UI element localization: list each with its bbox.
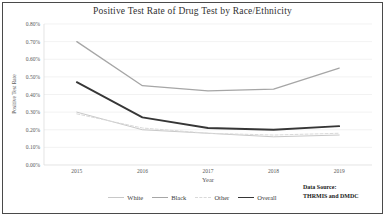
data-source-line2: THRMIS and DMDC <box>303 192 359 201</box>
y-tick-label: 0.70% <box>26 39 41 45</box>
y-tick-label: 0.80% <box>26 21 41 27</box>
x-tick-label: 2015 <box>71 168 82 174</box>
legend-item-white: White <box>108 194 143 201</box>
x-axis-title: Year <box>44 176 372 183</box>
gridlines <box>44 24 372 165</box>
y-tick-label: 0.00% <box>26 162 41 168</box>
x-tick-label: 2016 <box>137 168 148 174</box>
legend-swatch-black <box>152 197 168 198</box>
y-tick-label: 0.10% <box>26 144 41 150</box>
y-tick-label: 0.50% <box>26 74 41 80</box>
data-source-line1: Data Source: <box>303 183 359 192</box>
legend-swatch-white <box>108 197 124 198</box>
x-tick-label: 2017 <box>203 168 214 174</box>
y-tick-label: 0.20% <box>26 127 41 133</box>
figure: { "figure": { "data_source_line1": "Data… <box>0 0 385 217</box>
x-tick-labels: 20152016201720182019 <box>71 168 345 174</box>
y-tick-label: 0.30% <box>26 109 41 115</box>
legend-swatch-overall <box>238 197 254 198</box>
x-tick-label: 2018 <box>268 168 279 174</box>
legend-item-overall: Overall <box>238 194 277 201</box>
legend-label-other: Other <box>214 194 229 201</box>
legend-label-black: Black <box>171 194 186 201</box>
series-line-other <box>77 114 339 135</box>
legend-label-overall: Overall <box>257 194 277 201</box>
y-tick-labels: 0.00%0.10%0.20%0.30%0.40%0.50%0.60%0.70%… <box>26 21 41 168</box>
legend-label-white: White <box>127 194 143 201</box>
x-tick-label: 2019 <box>334 168 345 174</box>
data-source-note: Data Source: THRMIS and DMDC <box>303 183 359 200</box>
series-lines <box>77 42 339 137</box>
y-tick-label: 0.40% <box>26 92 41 98</box>
legend-item-other: Other <box>195 194 229 201</box>
y-tick-label: 0.60% <box>26 56 41 62</box>
legend-item-black: Black <box>152 194 186 201</box>
legend-swatch-other <box>195 197 211 198</box>
series-line-black <box>77 42 339 91</box>
